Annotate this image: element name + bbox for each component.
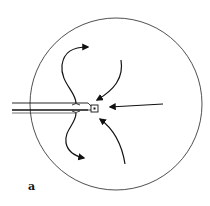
flow-diagram xyxy=(0,0,210,206)
inflow-arrow-lower xyxy=(100,119,125,164)
panel-label: a xyxy=(28,180,35,193)
outflow-arrow-lower xyxy=(66,113,84,158)
boundary-circle xyxy=(30,18,202,190)
probe-tip xyxy=(91,105,98,112)
probe-tube xyxy=(12,103,91,113)
inflow-arrow-upper xyxy=(97,60,122,100)
inflow-arrow-straight xyxy=(110,104,163,107)
outflow-arrow-upper xyxy=(62,47,88,103)
